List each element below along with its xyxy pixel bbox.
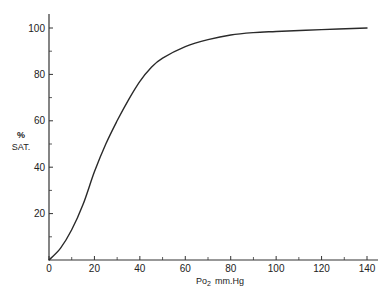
y-axis-label-sat: SAT. [12, 142, 30, 152]
x-tick-label: 140 [359, 263, 376, 274]
x-axis-label-unit: mm.Hg [215, 276, 244, 286]
y-tick-label: 100 [28, 23, 45, 34]
axes [49, 14, 378, 260]
x-tick-label: 20 [89, 263, 101, 274]
oxygen-dissociation-chart: 02040608010012014020406080100 % SAT. Po2… [0, 0, 388, 296]
tick-labels: 02040608010012014020406080100 [28, 23, 375, 275]
x-tick-label: 40 [134, 263, 146, 274]
x-tick-label: 100 [268, 263, 285, 274]
y-tick-label: 20 [34, 208, 46, 219]
x-tick-label: 60 [180, 263, 192, 274]
x-axis-label-subscript: 2 [207, 280, 211, 287]
y-tick-label: 40 [34, 162, 46, 173]
x-tick-label: 120 [313, 263, 330, 274]
x-axis-label-po: Po [196, 276, 207, 286]
y-axis-label-percent: % [17, 130, 25, 140]
x-tick-label: 80 [225, 263, 237, 274]
y-tick-label: 80 [34, 69, 46, 80]
y-tick-label: 60 [34, 115, 46, 126]
saturation-curve [49, 28, 367, 260]
x-axis-label: Po2mm.Hg [196, 276, 244, 287]
ticks [49, 28, 367, 260]
x-tick-label: 0 [46, 263, 52, 274]
